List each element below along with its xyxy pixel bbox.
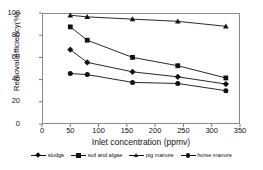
legend-item-pig-manure[interactable]: pig manure: [129, 152, 174, 159]
square-marker-icon: [71, 152, 86, 159]
x-tick-label: 350: [225, 127, 255, 135]
y-axis-title: Removal efficiency(%): [12, 0, 21, 107]
chart-figure: 100 80 60 40 20 0 0 50 100 150 200 250 3…: [0, 0, 263, 170]
x-tick-label: 0: [27, 127, 57, 135]
triangle-marker-icon: [129, 152, 144, 159]
x-tick-label: 250: [168, 127, 198, 135]
diamond-marker-icon: [31, 152, 46, 159]
plot-area: [42, 13, 240, 124]
circle-marker-icon: [181, 152, 196, 159]
legend-label: pig manure: [146, 152, 174, 159]
x-tick-label: 300: [197, 127, 227, 135]
legend-label: soil and algae: [88, 152, 123, 159]
x-tick-label: 150: [112, 127, 142, 135]
legend-item-soil-and-algae[interactable]: soil and algae: [71, 152, 122, 159]
y-tick-label: 0: [0, 120, 20, 128]
chart-legend: sludge soil and algae pig manure horse m…: [0, 152, 263, 159]
legend-item-horse-manure[interactable]: horse manure: [181, 152, 232, 159]
legend-item-sludge[interactable]: sludge: [31, 152, 64, 159]
legend-label: horse manure: [197, 152, 232, 159]
legend-label: sludge: [48, 152, 64, 159]
x-axis-title: Inlet concentration (ppmv): [42, 137, 240, 147]
x-tick-label: 200: [140, 127, 170, 135]
x-tick-label: 100: [84, 127, 114, 135]
x-tick-label: 50: [55, 127, 85, 135]
